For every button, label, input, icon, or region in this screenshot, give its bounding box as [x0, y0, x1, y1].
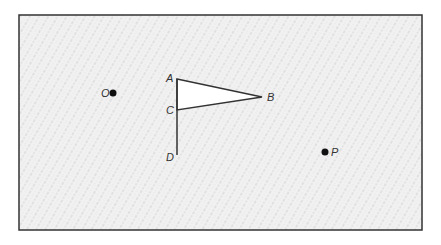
- diagram-canvas: O P A B C D: [0, 0, 441, 245]
- frame: [19, 15, 422, 230]
- point-o-dot: [110, 90, 117, 97]
- label-p: P: [331, 146, 339, 158]
- point-p-dot: [322, 149, 329, 156]
- label-o: O: [101, 87, 110, 99]
- label-c: C: [166, 104, 174, 116]
- label-d: D: [166, 151, 174, 163]
- label-b: B: [267, 91, 274, 103]
- label-a: A: [165, 72, 173, 84]
